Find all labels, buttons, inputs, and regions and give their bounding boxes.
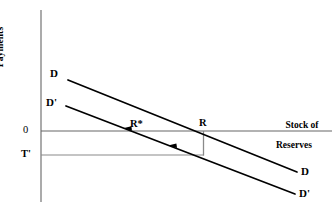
x-axis-title: Stock of Reserves — [276, 111, 319, 171]
curve-d-right-label: D — [301, 166, 309, 178]
y-axis-title: Balance of Payments — [0, 12, 26, 82]
curve-d-prime-left-label: D' — [46, 97, 57, 109]
curve-d-left-label: D — [50, 68, 58, 80]
y-axis-title-line2: Payments — [0, 12, 6, 82]
x-axis-title-line1: Stock of — [286, 120, 319, 130]
curve-d-prime-right-label: D' — [299, 188, 310, 200]
figure-canvas: Balance of Payments Stock of Reserves 0 … — [0, 0, 332, 209]
origin-label: 0 — [23, 124, 28, 135]
curve-d — [68, 80, 297, 172]
point-r-star-label: R* — [130, 118, 143, 129]
threshold-label: T' — [21, 148, 31, 159]
point-r-label: R — [199, 117, 207, 128]
curve-d-prime — [66, 106, 295, 194]
x-axis-title-line2: Reserves — [276, 141, 319, 151]
